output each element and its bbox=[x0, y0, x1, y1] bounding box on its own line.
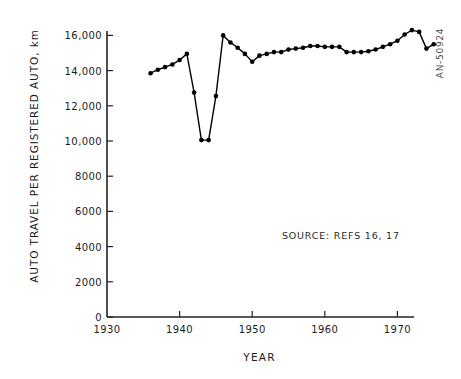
x-axis-tick-label: 1940 bbox=[166, 324, 193, 335]
data-point bbox=[330, 45, 335, 50]
data-point bbox=[228, 40, 233, 45]
data-point bbox=[264, 52, 269, 57]
data-point bbox=[199, 138, 204, 143]
data-point bbox=[388, 42, 393, 47]
data-point bbox=[156, 67, 161, 72]
data-point bbox=[424, 46, 429, 51]
data-point bbox=[257, 53, 262, 58]
data-point bbox=[395, 38, 400, 43]
y-axis-tick-label: 14,000 bbox=[40, 65, 102, 76]
data-series-auto-travel bbox=[148, 28, 436, 143]
data-point bbox=[315, 44, 320, 49]
data-point bbox=[214, 94, 219, 99]
data-point bbox=[323, 45, 328, 50]
data-point bbox=[170, 62, 175, 67]
y-axis-tick-label: 12,000 bbox=[40, 100, 102, 111]
y-axis-tick-label: 6000 bbox=[40, 206, 102, 217]
y-axis-ticks bbox=[107, 35, 113, 317]
chart-figure: 0200040006000800010,00012,00014,00016,00… bbox=[0, 0, 461, 379]
data-point bbox=[250, 60, 255, 65]
data-point bbox=[243, 52, 248, 57]
chart-axes bbox=[107, 31, 414, 317]
data-point bbox=[163, 65, 168, 70]
data-point bbox=[359, 50, 364, 55]
x-axis-tick-label: 1930 bbox=[93, 324, 120, 335]
y-axis-tick-label: 4000 bbox=[40, 241, 102, 252]
y-axis-tick-label: 8000 bbox=[40, 171, 102, 182]
data-point bbox=[373, 47, 378, 52]
data-point bbox=[286, 47, 291, 52]
series-markers bbox=[148, 28, 436, 143]
data-point bbox=[192, 90, 197, 95]
data-point bbox=[352, 50, 357, 55]
data-point bbox=[308, 44, 313, 49]
x-axis-title: YEAR bbox=[107, 351, 412, 363]
data-point bbox=[344, 50, 349, 55]
data-point bbox=[301, 45, 306, 50]
x-axis-tick-label: 1960 bbox=[311, 324, 338, 335]
data-point bbox=[206, 138, 211, 143]
data-point bbox=[293, 46, 298, 51]
data-point bbox=[148, 71, 153, 76]
data-point bbox=[185, 52, 190, 57]
y-axis-tick-label: 0 bbox=[40, 312, 102, 323]
data-point bbox=[221, 33, 226, 38]
y-axis-tick-label: 16,000 bbox=[40, 30, 102, 41]
data-point bbox=[272, 50, 277, 55]
document-code-label: AN-50924 bbox=[435, 8, 445, 98]
data-point bbox=[417, 30, 422, 35]
y-axis-tick-label: 10,000 bbox=[40, 136, 102, 147]
y-axis-title: AUTO TRAVEL PER REGISTERED AUTO, km bbox=[28, 26, 40, 286]
source-note: SOURCE: REFS 16, 17 bbox=[282, 230, 400, 241]
data-point bbox=[177, 58, 182, 63]
x-axis-ticks bbox=[180, 311, 398, 317]
x-axis-tick-label: 1970 bbox=[384, 324, 411, 335]
x-axis-tick-label: 1950 bbox=[239, 324, 266, 335]
series-line bbox=[151, 30, 434, 140]
data-point bbox=[366, 49, 371, 54]
data-point bbox=[337, 45, 342, 50]
data-point bbox=[279, 50, 284, 55]
data-point bbox=[381, 45, 386, 50]
data-point bbox=[402, 32, 407, 37]
y-axis-tick-label: 2000 bbox=[40, 276, 102, 287]
data-point bbox=[410, 28, 415, 33]
data-point bbox=[235, 45, 240, 50]
